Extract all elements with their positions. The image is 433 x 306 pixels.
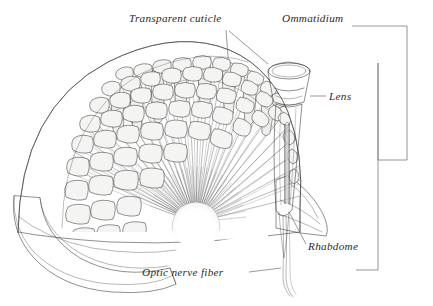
leader-optic-nerve <box>249 268 281 272</box>
leader-rhabdome <box>289 212 306 244</box>
label-optic-nerve-fiber: Optic nerve fiber <box>142 266 224 278</box>
leader-cuticle-ommatidium <box>229 31 268 64</box>
right-base-wedge <box>276 176 327 236</box>
leader-cuticle-dome <box>226 30 228 60</box>
label-transparent-cuticle: Transparent cuticle <box>129 12 222 24</box>
rhabdome-rod <box>285 122 289 204</box>
lens-layer-upper <box>274 88 304 91</box>
brackets <box>356 26 407 270</box>
label-lens: Lens <box>328 90 352 102</box>
compound-eye-diagram: Transparent cuticle Ommatidium Lens Rhab… <box>0 0 433 306</box>
label-rhabdome: Rhabdome <box>307 240 358 252</box>
outer-bracket <box>378 26 407 160</box>
inner-bracket <box>356 63 378 270</box>
optic-nerve-fibers <box>283 216 296 297</box>
label-ommatidium: Ommatidium <box>282 12 343 24</box>
